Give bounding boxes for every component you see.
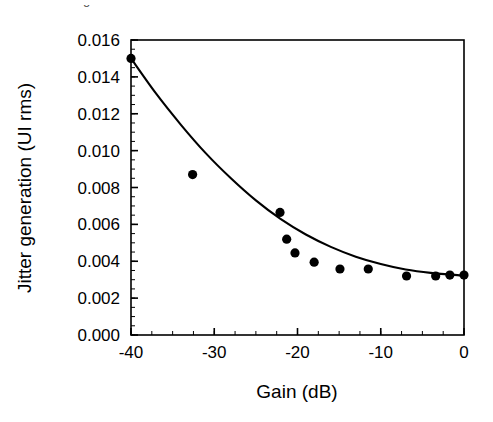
y-axis-major-ticks — [131, 40, 138, 335]
y-axis-tick-labels: 0.0000.0020.0040.0060.0080.0100.0120.014… — [77, 31, 120, 345]
data-point-series — [126, 54, 468, 281]
y-tick-label: 0.006 — [77, 215, 120, 234]
x-tick-label: -30 — [202, 343, 227, 362]
data-point — [290, 248, 299, 257]
y-tick-label: 0.012 — [77, 105, 120, 124]
plot-frame — [131, 40, 464, 335]
x-tick-label: -40 — [119, 343, 144, 362]
y-tick-label: 0.016 — [77, 31, 120, 50]
data-point — [188, 170, 197, 179]
data-point — [431, 271, 440, 280]
data-point — [402, 271, 411, 280]
data-point — [126, 54, 135, 63]
data-point — [459, 270, 468, 279]
x-tick-label: 0 — [459, 343, 468, 362]
x-tick-label: -20 — [285, 343, 310, 362]
y-tick-label: 0.010 — [77, 142, 120, 161]
x-tick-label: -10 — [368, 343, 393, 362]
scatter-chart: Jitter generation (UI rms) Gain (dB) 0.0… — [0, 0, 493, 422]
data-point — [275, 208, 284, 217]
y-tick-label: 0.002 — [77, 289, 120, 308]
data-point — [364, 264, 373, 273]
data-point — [335, 264, 344, 273]
data-point — [310, 258, 319, 267]
y-tick-label: 0.008 — [77, 179, 120, 198]
jitter-generation-figure: from configuration. Jitter generation (U… — [0, 0, 493, 422]
y-tick-label: 0.000 — [77, 326, 120, 345]
fit-curve — [131, 58, 464, 275]
y-axis-title: Jitter generation (UI rms) — [14, 83, 35, 293]
x-axis-major-ticks — [131, 328, 464, 335]
data-point — [282, 235, 291, 244]
x-axis-tick-labels: -40-30-20-100 — [119, 343, 469, 362]
y-tick-label: 0.014 — [77, 68, 120, 87]
y-tick-label: 0.004 — [77, 252, 120, 271]
x-axis-title: Gain (dB) — [256, 381, 337, 402]
data-point — [445, 270, 454, 279]
